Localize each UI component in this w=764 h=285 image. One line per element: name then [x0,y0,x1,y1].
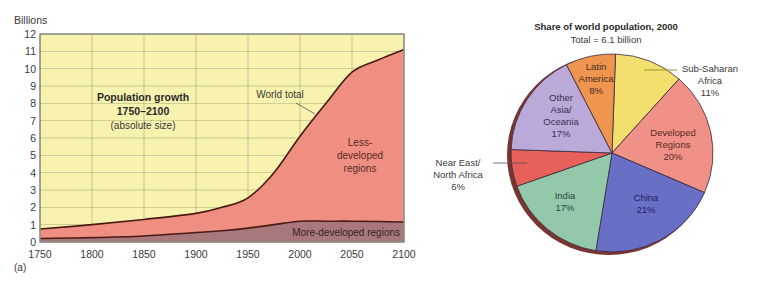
more-developed-label: More-developed regions [292,227,400,238]
pie-label: 17% [555,202,575,213]
y-tick: 6 [30,132,36,144]
y-tick: 10 [24,63,36,75]
x-tick: 2000 [288,248,312,260]
pie-label: 8% [589,85,603,96]
x-tick: 2100 [392,248,416,260]
pie-label: America [579,73,615,84]
pie-label: Regions [656,139,691,150]
pie-label: North Africa [433,169,483,180]
pie-label: 6% [451,181,465,192]
pie-label: Developed [650,127,695,138]
y-tick: 7 [30,115,36,127]
pie-label: 17% [551,128,571,139]
pie-label: Other [549,92,573,103]
pie-label: Oceania [543,116,579,127]
y-tick: 9 [30,80,36,92]
y-tick: 5 [30,149,36,161]
pie-label: Latin [586,61,607,72]
pie-label: India [555,190,576,201]
y-tick: 3 [30,184,36,196]
pie-label: 21% [636,204,656,215]
pie-label: Sub-Saharan [682,63,738,74]
y-tick: 8 [30,97,36,109]
pie-subtitle: Total = 6.1 billion [570,34,641,45]
x-tick: 1800 [80,248,104,260]
less-developed-label-3: regions [344,163,377,174]
pie-label: China [634,192,660,203]
y-tick: 2 [30,201,36,213]
y-tick: 1 [30,219,36,231]
y-tick: 12 [24,28,36,40]
pie-label: 20% [663,151,683,162]
chart-subtitle-note: (absolute size) [110,120,175,131]
panel-label: (a) [14,262,26,273]
world-total-label: World total [256,89,304,100]
pie-label: Asia/ [550,104,571,115]
x-tick: 1750 [28,248,52,260]
less-developed-label-2: developed [337,150,383,161]
pie-label: Near East/ [436,157,481,168]
less-developed-label-1: Less- [348,137,372,148]
pie-label: Africa [698,75,723,86]
chart-subtitle-years: 1750–2100 [117,105,170,117]
y-tick: 0 [30,236,36,248]
y-tick: 11 [25,45,36,57]
x-tick: 1850 [132,248,156,260]
y-axis-label: Billions [14,14,47,26]
pie-title: Share of world population, 2000 [534,21,678,32]
pie-label: 11% [701,87,720,98]
chart-title: Population growth [97,91,189,103]
figure: Billions01234567891011121750180018501900… [0,0,764,285]
y-tick: 4 [30,167,36,179]
x-tick: 2050 [340,248,364,260]
x-tick: 1900 [184,248,208,260]
x-tick: 1950 [236,248,260,260]
